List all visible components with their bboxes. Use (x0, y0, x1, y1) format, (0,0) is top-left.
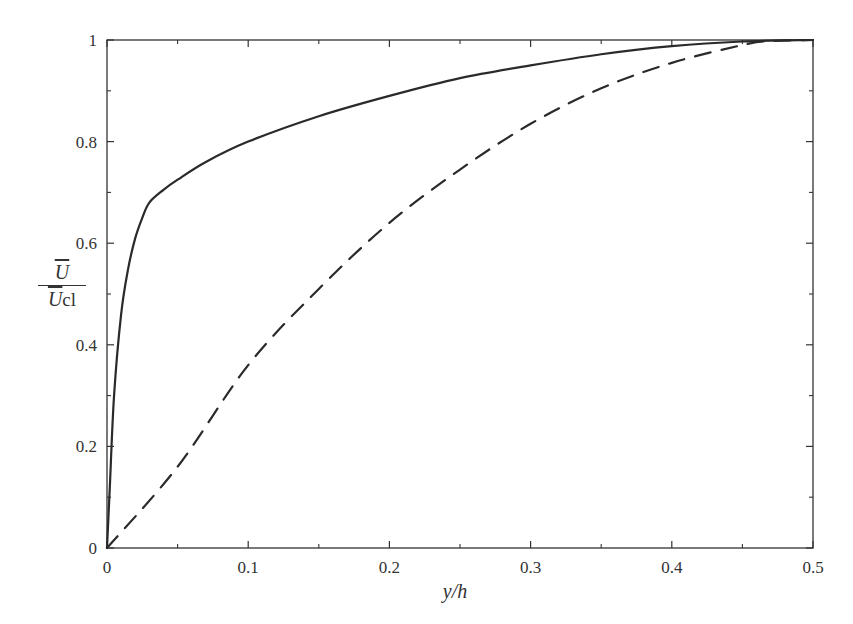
y-label-numerator: U (38, 262, 86, 286)
x-tick-label: 0.3 (520, 558, 541, 577)
y-tick-label: 0.8 (76, 133, 97, 152)
y-tick-label: 0 (89, 539, 98, 558)
x-tick-label: 0.4 (661, 558, 683, 577)
solid-curve (107, 40, 813, 548)
y-label-denominator: Ucl (38, 286, 86, 309)
y-axis-label: U Ucl (38, 262, 86, 309)
x-tick-label: 0 (103, 558, 112, 577)
plot-frame (107, 40, 813, 548)
x-tick-label: 0.5 (802, 558, 823, 577)
x-axis-label: y/h (441, 580, 467, 603)
chart-canvas: 00.10.20.30.40.500.20.40.60.81y/h (0, 0, 853, 624)
y-tick-label: 1 (89, 31, 98, 50)
y-tick-label: 0.6 (76, 234, 97, 253)
y-tick-label: 0.2 (76, 437, 97, 456)
x-tick-label: 0.2 (379, 558, 400, 577)
dashed-curve (107, 40, 813, 548)
y-tick-label: 0.4 (76, 336, 98, 355)
x-tick-label: 0.1 (238, 558, 259, 577)
